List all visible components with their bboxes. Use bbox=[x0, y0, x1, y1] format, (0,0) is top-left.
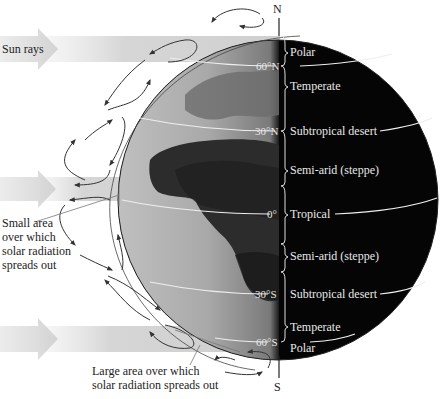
latitude-label-equator: 0° bbox=[267, 208, 277, 221]
large-area-label: Large area over which solar radiation sp… bbox=[92, 364, 218, 392]
small-area-line-2: over which bbox=[2, 230, 71, 244]
latitude-label-30s: 30°S bbox=[255, 288, 277, 301]
climate-zones-diagram: Sun rays N S Africa Small area over whic… bbox=[0, 0, 442, 399]
zone-label-temperate-south: Temperate bbox=[290, 321, 340, 334]
zone-label-polar-north: Polar bbox=[290, 46, 315, 59]
continent-label-africa: Africa bbox=[218, 191, 246, 204]
zone-label-semi-arid-north: Semi-arid (steppe) bbox=[290, 164, 379, 177]
sun-rays-label: Sun rays bbox=[2, 43, 44, 56]
latitude-label-60s: 60°S bbox=[256, 336, 278, 349]
zone-label-subtropical-desert-south: Subtropical desert bbox=[290, 288, 377, 301]
small-area-label: Small area over which solar radiation sp… bbox=[2, 216, 71, 272]
small-area-line-1: Small area bbox=[2, 216, 71, 230]
small-area-line-4: spreads out bbox=[2, 258, 71, 272]
zone-label-temperate-north: Temperate bbox=[290, 80, 340, 93]
zone-label-semi-arid-south: Semi-arid (steppe) bbox=[290, 250, 379, 263]
north-pole-label: N bbox=[273, 3, 282, 16]
latitude-label-60n: 60°N bbox=[256, 60, 279, 73]
south-pole-label: S bbox=[274, 381, 281, 394]
small-area-line-3: solar radiation bbox=[2, 244, 71, 258]
earth-globe bbox=[100, 30, 438, 370]
zone-label-subtropical-desert-north: Subtropical desert bbox=[290, 125, 377, 138]
large-area-line-1: Large area over which bbox=[92, 364, 218, 378]
latitude-label-30n: 30°N bbox=[255, 125, 278, 138]
zone-label-polar-south: Polar bbox=[290, 342, 315, 355]
zone-label-tropical: Tropical bbox=[290, 208, 330, 221]
large-area-line-2: solar radiation spreads out bbox=[92, 378, 218, 392]
